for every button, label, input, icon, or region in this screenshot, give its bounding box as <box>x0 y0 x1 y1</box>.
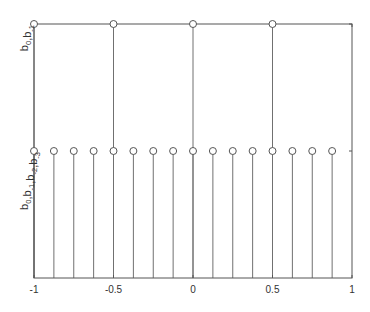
y-tick-label: b0,b-1,b-2,b-3 <box>18 152 42 210</box>
labels-layer: -1-0.500.51b0,b-1,b-2,b-3b0,b-1 <box>18 25 355 295</box>
stem-marker-level-1 <box>90 148 97 155</box>
stem-marker-level-1 <box>249 148 256 155</box>
stem-marker-level-1 <box>110 148 117 155</box>
y-tick-label: b0,b-1 <box>18 25 36 51</box>
stem-marker-level-1 <box>229 148 236 155</box>
stem-chart: -1-0.500.51b0,b-1,b-2,b-3b0,b-1 <box>0 0 370 312</box>
x-tick-label: 1 <box>349 284 355 295</box>
stem-marker-level-1 <box>50 148 57 155</box>
x-tick-label: 0.5 <box>266 284 280 295</box>
stem-marker-level-1 <box>150 148 157 155</box>
x-tick-label: -1 <box>30 284 39 295</box>
stem-marker-level-2 <box>110 21 117 28</box>
stem-marker-level-1 <box>130 148 137 155</box>
stems-layer <box>34 24 332 278</box>
stem-marker-level-1 <box>329 148 336 155</box>
x-tick-label: -0.5 <box>105 284 123 295</box>
stem-marker-level-1 <box>209 148 216 155</box>
stem-marker-level-1 <box>269 148 276 155</box>
stem-marker-level-1 <box>309 148 316 155</box>
markers-layer <box>31 21 336 155</box>
stem-marker-level-2 <box>269 21 276 28</box>
stem-marker-level-1 <box>70 148 77 155</box>
x-tick-label: 0 <box>190 284 196 295</box>
stem-marker-level-2 <box>190 21 197 28</box>
stem-marker-level-1 <box>170 148 177 155</box>
stem-marker-level-1 <box>289 148 296 155</box>
stem-marker-level-1 <box>190 148 197 155</box>
